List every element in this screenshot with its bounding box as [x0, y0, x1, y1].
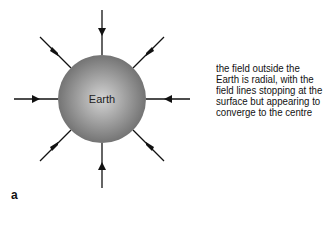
arrow-icon — [164, 95, 172, 103]
arrow-icon — [32, 95, 40, 103]
arrow-icon — [98, 162, 106, 170]
panel-label: a — [11, 188, 18, 202]
caption-line: converge to the centre — [216, 107, 317, 118]
earth-label: Earth — [89, 93, 115, 105]
caption: the field outside the Earth is radial, w… — [216, 63, 317, 118]
arrow-icon — [98, 28, 106, 36]
